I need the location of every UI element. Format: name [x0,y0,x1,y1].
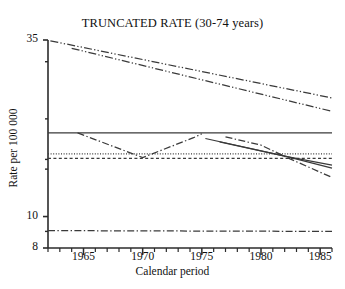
x-tick-label: 1985 [300,250,340,262]
x-tick-label: 1975 [182,250,222,262]
y-tick-label: 8 [12,240,38,252]
series-upper-band-a [50,41,332,98]
axis-ticks [43,40,332,255]
series-fitted-trend-solid-b [220,142,332,168]
series-observed-descending-dashdot [226,137,333,178]
y-tick-label: 10 [12,209,38,221]
chart-figure: TRUNCATED RATE (30-74 years) Rate per 10… [0,0,345,289]
axes [48,40,332,248]
x-tick-label: 1970 [123,250,163,262]
plot-area [0,0,345,289]
series-upper-band-b [72,48,332,111]
y-tick-label: 35 [12,32,38,44]
x-tick-label: 1965 [64,250,104,262]
x-tick-label: 1980 [241,250,281,262]
data-series [48,41,332,232]
series-baseline-dash-dot [48,231,332,232]
